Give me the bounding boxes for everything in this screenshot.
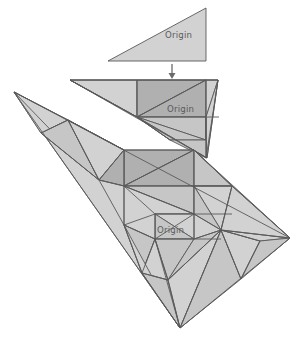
triangle-subdivision-diagram: Origin: [0, 0, 306, 339]
gen3-cell-c7: [221, 186, 290, 238]
arrow-head-icon: [169, 73, 176, 79]
arrow-gen1-to-gen2: [169, 64, 176, 79]
origin-label-gen3: Origin: [157, 225, 184, 235]
figure-canvas: Origin: [0, 0, 306, 339]
generation-1-group: Origin: [108, 8, 206, 61]
origin-label-gen1: Origin: [165, 30, 192, 40]
origin-label-gen2: Origin: [167, 104, 194, 114]
